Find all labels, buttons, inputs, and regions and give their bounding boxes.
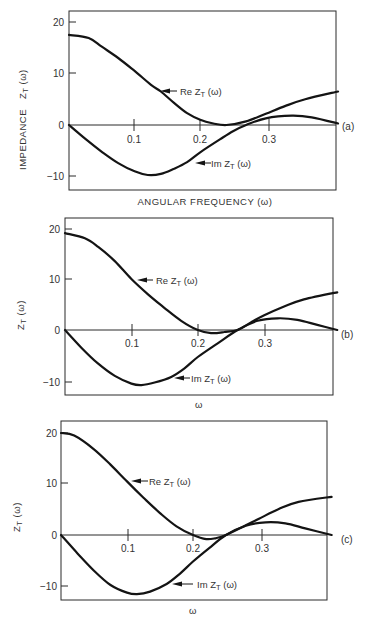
im-annotation: Im ZT (ω) bbox=[174, 373, 231, 386]
ytick-label: 10 bbox=[53, 68, 65, 79]
ytick-label: 20 bbox=[46, 428, 58, 439]
xtick-label: 0.2 bbox=[193, 134, 207, 145]
re-annotation: Re ZT (ω) bbox=[160, 86, 222, 99]
svg-text:Im ZT (ω): Im ZT (ω) bbox=[197, 579, 237, 592]
re-annotation: Re ZT (ω) bbox=[137, 275, 198, 288]
x-ticks: 0.1 0.2 0.3 bbox=[121, 529, 269, 554]
panel-label: (a) bbox=[342, 121, 354, 132]
x-ticks: 0.1 0.2 0.3 bbox=[125, 324, 272, 349]
ytick-label: 0 bbox=[51, 530, 57, 541]
y-axis-label: ZT (ω) bbox=[15, 300, 28, 330]
xtick-label: 0.2 bbox=[186, 543, 200, 554]
x-axis-label: ANGULAR FREQUENCY (ω) bbox=[138, 196, 273, 207]
xtick-label: 0.1 bbox=[125, 338, 139, 349]
ytick-label: −10 bbox=[43, 377, 60, 388]
y-ticks: 20 10 0 −10 bbox=[47, 17, 76, 182]
y-ticks: 20 10 0 −10 bbox=[43, 224, 72, 388]
re-curve bbox=[65, 233, 337, 333]
y-axis-label: IMPEDANCEZT (ω) bbox=[17, 69, 30, 170]
panel-label: (b) bbox=[341, 329, 353, 340]
ytick-label: 20 bbox=[49, 224, 61, 235]
xtick-label: 0.3 bbox=[258, 338, 272, 349]
ytick-label: 0 bbox=[54, 325, 60, 336]
xtick-label: 0.3 bbox=[255, 543, 269, 554]
ytick-label: 10 bbox=[49, 274, 61, 285]
ytick-label: 10 bbox=[46, 478, 58, 489]
ytick-label: −10 bbox=[40, 581, 57, 592]
ytick-label: −10 bbox=[47, 171, 64, 182]
xtick-label: 0.3 bbox=[262, 134, 276, 145]
panel-a: 20 10 0 −10 0.1 0.2 0.3 Re ZT (ω) Im ZT … bbox=[17, 11, 354, 207]
xtick-label: 0.2 bbox=[191, 338, 205, 349]
re-annotation: Re ZT (ω) bbox=[131, 476, 191, 489]
re-curve bbox=[61, 433, 332, 539]
x-axis-label: ω bbox=[189, 605, 197, 616]
svg-text:Re ZT (ω): Re ZT (ω) bbox=[156, 275, 198, 288]
xtick-label: 0.1 bbox=[127, 134, 141, 145]
ytick-label: 0 bbox=[58, 120, 64, 131]
y-ticks: 20 10 0 −10 bbox=[40, 428, 68, 592]
svg-text:Im ZT (ω): Im ZT (ω) bbox=[211, 158, 251, 171]
re-curve bbox=[69, 35, 338, 125]
panel-c: 20 10 0 −10 0.1 0.2 0.3 Re ZT (ω) Im ZT … bbox=[11, 421, 353, 616]
plot-frame bbox=[61, 421, 327, 600]
svg-text:Re ZT (ω): Re ZT (ω) bbox=[149, 476, 191, 489]
panel-b: 20 10 0 −10 0.1 0.2 0.3 Re ZT (ω) Im ZT … bbox=[15, 218, 353, 410]
impedance-figure: 20 10 0 −10 0.1 0.2 0.3 Re ZT (ω) Im ZT … bbox=[0, 0, 366, 622]
im-annotation: Im ZT (ω) bbox=[172, 579, 237, 592]
x-axis-label: ω bbox=[195, 399, 203, 410]
ytick-label: 20 bbox=[53, 17, 65, 28]
svg-text:Im ZT (ω): Im ZT (ω) bbox=[191, 373, 231, 386]
panel-label: (c) bbox=[341, 534, 353, 545]
svg-text:Re ZT (ω): Re ZT (ω) bbox=[180, 86, 222, 99]
y-axis-label: ZT (ω) bbox=[11, 502, 24, 532]
xtick-label: 0.1 bbox=[121, 543, 135, 554]
im-annotation: Im ZT (ω) bbox=[195, 158, 251, 171]
